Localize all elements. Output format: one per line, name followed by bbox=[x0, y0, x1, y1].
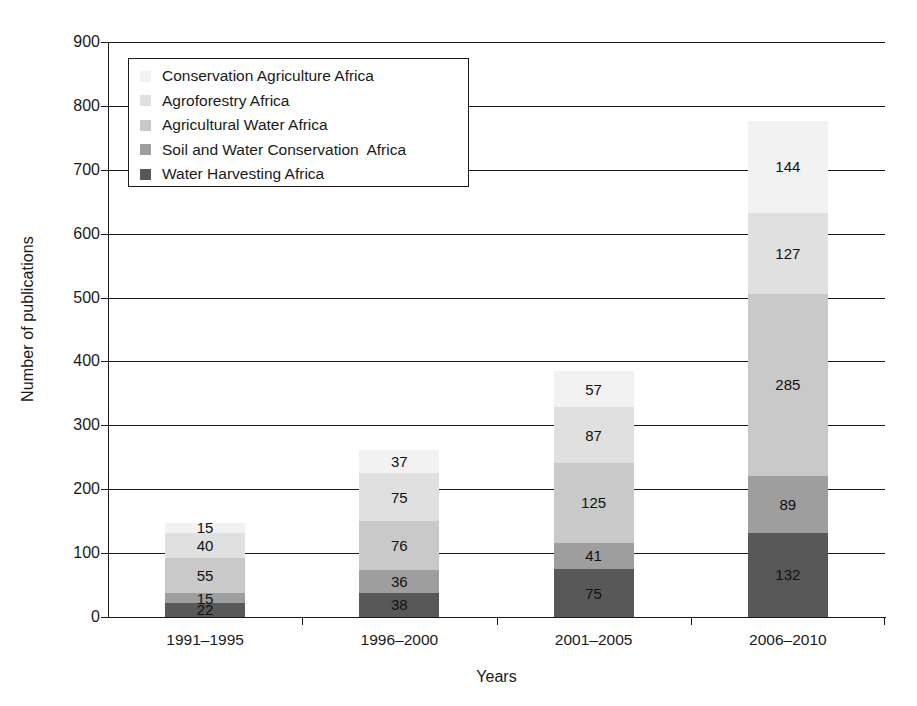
y-axis-tick-label: 500 bbox=[40, 290, 100, 306]
legend-item[interactable]: Agroforestry Africa bbox=[140, 88, 290, 114]
legend-item-label: Soil and Water Conservation Africa bbox=[162, 141, 406, 159]
x-axis-tick-label: 2001–2005 bbox=[509, 631, 679, 649]
x-axis-tick-label: 1991–1995 bbox=[120, 631, 290, 649]
legend-item-label: Conservation Agriculture Africa bbox=[162, 67, 374, 85]
bar-segment-value-label: 285 bbox=[748, 377, 828, 392]
x-axis-tick-label: 2006–2010 bbox=[703, 631, 873, 649]
bar-segment-value-label: 127 bbox=[748, 246, 828, 261]
x-axis-tick-mark bbox=[497, 618, 498, 625]
y-axis-tick-label: 800 bbox=[40, 98, 100, 114]
bar-segment-value-label: 132 bbox=[748, 567, 828, 582]
bar-segment-value-label: 36 bbox=[359, 574, 439, 589]
y-axis-tick-label: 200 bbox=[40, 481, 100, 497]
y-axis-tick-mark bbox=[101, 617, 108, 618]
x-axis-tick-mark bbox=[691, 618, 692, 625]
y-axis-tick-mark bbox=[101, 489, 108, 490]
bar-segment-value-label: 55 bbox=[165, 568, 245, 583]
bar-segment-value-label: 38 bbox=[359, 597, 439, 612]
stacked-bar[interactable]: 13289285127144 bbox=[748, 42, 828, 617]
legend-color-swatch bbox=[140, 144, 151, 155]
y-axis-tick-mark bbox=[101, 361, 108, 362]
x-axis-title: Years bbox=[108, 668, 885, 686]
legend-item-label: Agricultural Water Africa bbox=[162, 116, 328, 134]
y-axis-tick-mark bbox=[101, 106, 108, 107]
y-axis-tick-label: 700 bbox=[40, 162, 100, 178]
chart-legend: Conservation Agriculture AfricaAgrofores… bbox=[128, 58, 469, 187]
legend-item-label: Agroforestry Africa bbox=[162, 92, 290, 110]
bar-segment-value-label: 75 bbox=[359, 490, 439, 505]
bar-segment-value-label: 144 bbox=[748, 159, 828, 174]
y-axis-tick-mark bbox=[101, 298, 108, 299]
legend-item-label: Water Harvesting Africa bbox=[162, 165, 324, 183]
y-axis-tick-mark bbox=[101, 425, 108, 426]
y-axis-tick-label: 100 bbox=[40, 545, 100, 561]
legend-item[interactable]: Conservation Agriculture Africa bbox=[140, 63, 374, 89]
legend-item[interactable]: Soil and Water Conservation Africa bbox=[140, 137, 406, 163]
legend-color-swatch bbox=[140, 169, 151, 180]
y-axis-tick-label: 900 bbox=[40, 34, 100, 50]
stacked-bar[interactable]: 75411258757 bbox=[554, 42, 634, 617]
legend-item[interactable]: Water Harvesting Africa bbox=[140, 161, 324, 187]
x-axis-tick-mark bbox=[302, 618, 303, 625]
y-axis-tick-mark bbox=[101, 553, 108, 554]
y-axis-tick-label: 300 bbox=[40, 417, 100, 433]
bar-segment-value-label: 57 bbox=[554, 382, 634, 397]
legend-color-swatch bbox=[140, 120, 151, 131]
bar-segment-value-label: 89 bbox=[748, 497, 828, 512]
bar-segment-value-label: 76 bbox=[359, 538, 439, 553]
y-axis-tick-label: 600 bbox=[40, 226, 100, 242]
legend-color-swatch bbox=[140, 95, 151, 106]
bar-segment-value-label: 15 bbox=[165, 520, 245, 535]
y-axis-tick-label: 400 bbox=[40, 353, 100, 369]
x-axis-tick-label: 1996–2000 bbox=[314, 631, 484, 649]
bar-segment-value-label: 125 bbox=[554, 495, 634, 510]
x-axis-tick-mark bbox=[884, 618, 885, 625]
bar-segment-value-label: 75 bbox=[554, 586, 634, 601]
legend-item[interactable]: Agricultural Water Africa bbox=[140, 112, 328, 138]
chart-figure: Number of publications 01002003004005006… bbox=[0, 0, 917, 706]
y-axis-tick-mark bbox=[101, 42, 108, 43]
bar-segment-value-label: 87 bbox=[554, 428, 634, 443]
y-axis-tick-label: 0 bbox=[40, 609, 100, 625]
bar-segment-value-label: 37 bbox=[359, 454, 439, 469]
y-axis-tick-labels: 0100200300400500600700800900 bbox=[38, 42, 100, 617]
legend-color-swatch bbox=[140, 71, 151, 82]
y-axis-tick-mark bbox=[101, 234, 108, 235]
x-axis-tick-marks bbox=[108, 618, 886, 626]
bar-segment-value-label: 41 bbox=[554, 548, 634, 563]
y-axis-title: Number of publications bbox=[19, 189, 37, 449]
y-axis-tick-mark bbox=[101, 170, 108, 171]
bar-segment-value-label: 40 bbox=[165, 538, 245, 553]
